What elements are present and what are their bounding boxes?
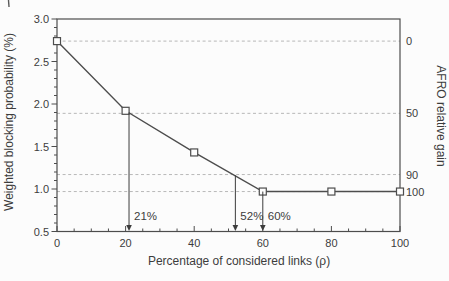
x-axis-tick-label: 0: [54, 237, 60, 249]
y-axis-tick-label: 1.0: [34, 183, 49, 195]
y-axis-tick-label: 2.5: [34, 56, 49, 68]
annotation-label: 21%: [134, 210, 157, 222]
data-point-marker: [397, 188, 404, 195]
x-axis-tick-label: 20: [119, 237, 131, 249]
data-point-marker: [328, 188, 335, 195]
y-axis-tick-label: 0.5: [34, 226, 49, 238]
y-axis-tick-label: 2.0: [34, 98, 49, 110]
plot-frame: [57, 19, 400, 232]
annotation-arrowhead: [260, 225, 266, 231]
data-point-marker: [54, 38, 61, 45]
y-axis-title-right: AFRO relative gain: [434, 65, 448, 166]
y-axis-tick-label: 3.0: [34, 13, 49, 25]
annotation-label: 52%: [240, 210, 263, 222]
data-point-marker: [191, 149, 198, 156]
annotation-label: 60%: [268, 210, 291, 222]
annotations-layer: 21%52%60%: [126, 113, 291, 232]
chart-figure: 05090100 0.51.01.52.02.53.0020406080100 …: [0, 0, 449, 281]
axes-layer: 0.51.01.52.02.53.0020406080100: [34, 13, 409, 249]
x-axis-tick-label: 60: [257, 237, 269, 249]
blocking-probability-chart: 05090100 0.51.01.52.02.53.0020406080100 …: [0, 0, 449, 281]
x-axis-title: Percentage of considered links (ρ): [148, 254, 330, 268]
right-axis-tick-label-100: 100: [406, 186, 424, 198]
annotation-arrowhead: [233, 225, 239, 231]
data-series-layer: [54, 38, 404, 195]
data-line: [57, 41, 400, 191]
scan-artifact-mark: [9, 0, 10, 7]
gridlines-layer: 05090100: [57, 35, 424, 197]
y-axis-title-left: Weighted blocking probability (%): [2, 33, 16, 211]
data-point-marker: [122, 107, 129, 114]
right-axis-tick-label-50: 50: [406, 107, 418, 119]
annotation-arrowhead: [126, 225, 132, 231]
x-axis-tick-label: 40: [188, 237, 200, 249]
y-axis-tick-label: 1.5: [34, 141, 49, 153]
right-axis-tick-label-90: 90: [406, 169, 418, 181]
x-axis-tick-label: 80: [325, 237, 337, 249]
x-axis-tick-label: 100: [391, 237, 409, 249]
right-axis-tick-label-0: 0: [406, 35, 412, 47]
